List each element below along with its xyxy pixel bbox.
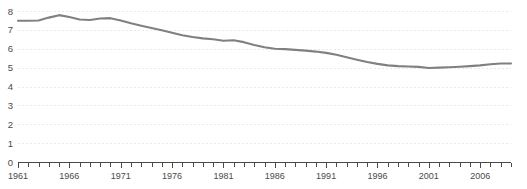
- y-tick-label-5: 5: [8, 62, 13, 73]
- gridlines: [18, 12, 511, 144]
- x-tick-label-1996: 1996: [367, 171, 387, 181]
- y-tick-label-8: 8: [8, 6, 13, 17]
- y-tick-label-1: 1: [8, 138, 13, 149]
- x-axis-tick-labels: 1961196619711976198119861991199620012006: [8, 171, 490, 181]
- x-tick-label-2001: 2001: [419, 171, 439, 181]
- y-axis-tick-labels: 012345678: [8, 6, 13, 168]
- y-tick-label-0: 0: [8, 157, 13, 168]
- x-tick-label-1981: 1981: [213, 171, 233, 181]
- y-tick-label-6: 6: [8, 43, 13, 54]
- y-tick-label-2: 2: [8, 119, 13, 130]
- x-tick-label-1971: 1971: [111, 171, 131, 181]
- chart-canvas: 012345678 196119661971197619811986199119…: [0, 0, 527, 189]
- x-tick-label-1966: 1966: [59, 171, 79, 181]
- y-tick-label-7: 7: [8, 24, 13, 35]
- x-tick-label-1961: 1961: [8, 171, 28, 181]
- x-tick-label-1976: 1976: [162, 171, 182, 181]
- series-line-1: [18, 15, 511, 68]
- x-tick-label-1986: 1986: [265, 171, 285, 181]
- y-tick-label-3: 3: [8, 100, 13, 111]
- x-tick-label-2006: 2006: [470, 171, 490, 181]
- data-series-line: [18, 15, 511, 68]
- line-chart: 012345678 196119661971197619811986199119…: [0, 0, 527, 189]
- y-tick-label-4: 4: [8, 81, 13, 92]
- x-tick-label-1991: 1991: [316, 171, 336, 181]
- x-axis-ticks: [19, 163, 512, 168]
